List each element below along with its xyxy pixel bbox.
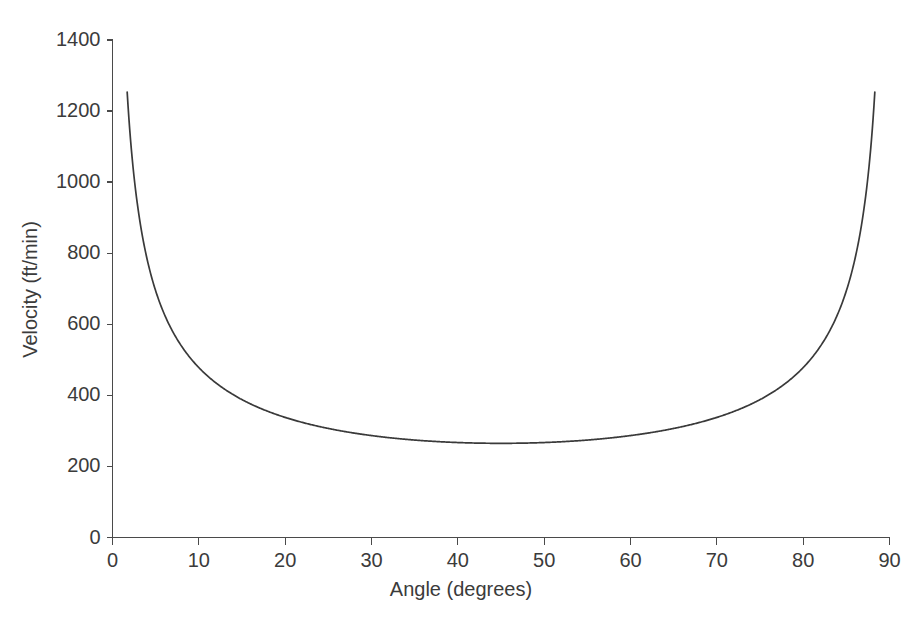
x-tick-label: 80 (773, 550, 833, 570)
y-tick-label: 800 (67, 242, 100, 262)
x-tick-label: 30 (342, 550, 402, 570)
y-tick-label: 1400 (56, 29, 101, 49)
data-series-group (127, 92, 875, 443)
x-tick-label: 0 (83, 550, 143, 570)
x-tick-label: 60 (601, 550, 661, 570)
y-tick-label: 200 (67, 455, 100, 475)
y-tick-label: 600 (67, 313, 100, 333)
x-tick-label: 10 (169, 550, 229, 570)
x-tick-label: 70 (687, 550, 747, 570)
x-tick-label: 90 (860, 550, 920, 570)
x-tick-label: 50 (514, 550, 574, 570)
x-tick-label: 20 (255, 550, 315, 570)
y-tick-label: 1000 (56, 171, 101, 191)
y-tick-label: 1200 (56, 100, 101, 120)
x-axis-title: Angle (degrees) (0, 578, 922, 601)
y-tick-label: 400 (67, 384, 100, 404)
axes-group (107, 40, 890, 545)
y-axis-title: Velocity (ft/min) (19, 150, 42, 430)
y-tick-label: 0 (89, 527, 100, 547)
y-axis-ticks (107, 40, 113, 538)
x-tick-label: 40 (428, 550, 488, 570)
x-axis-ticks (113, 538, 890, 545)
plot-area (0, 0, 922, 618)
chart-figure: 0200400600800100012001400 01020304050607… (0, 0, 922, 618)
velocity-curve (127, 92, 875, 443)
